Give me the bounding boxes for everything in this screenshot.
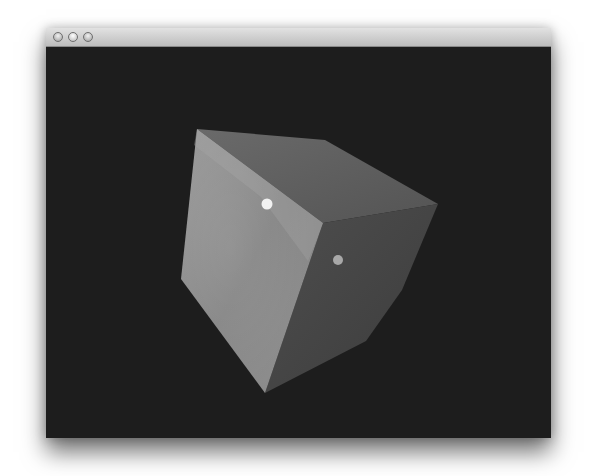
minimize-button[interactable] bbox=[68, 32, 78, 42]
3d-viewport[interactable] bbox=[46, 47, 551, 438]
zoom-button[interactable] bbox=[83, 32, 93, 42]
grey-dot-marker[interactable] bbox=[333, 255, 343, 265]
app-window bbox=[46, 28, 551, 438]
close-button[interactable] bbox=[53, 32, 63, 42]
cube-scene[interactable] bbox=[46, 47, 551, 438]
title-bar[interactable] bbox=[46, 28, 551, 47]
white-dot-marker[interactable] bbox=[262, 199, 273, 210]
